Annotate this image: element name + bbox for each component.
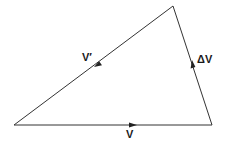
vector-v-prime-label: V′	[82, 52, 92, 63]
vector-triangle-diagram	[0, 0, 226, 145]
arrowhead-v-icon	[129, 123, 137, 128]
triangle-edges	[14, 6, 212, 125]
vector-delta-v-label: ΔV	[197, 54, 212, 65]
vector-v-label: V	[126, 129, 133, 140]
vector-v-prime-line	[14, 6, 173, 125]
